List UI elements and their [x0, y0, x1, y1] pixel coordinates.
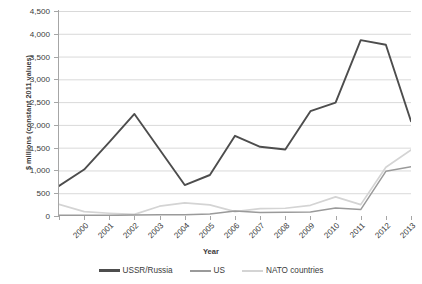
x-axis-tick-label: 2011	[348, 221, 367, 240]
x-axis-tick-mark	[361, 216, 362, 220]
x-axis-tick-mark	[260, 216, 261, 220]
x-axis-tick-label: 2009	[298, 221, 317, 240]
x-axis-tick-mark	[386, 216, 387, 220]
x-axis-tick-mark	[285, 216, 286, 220]
x-axis-tick-mark	[411, 216, 412, 220]
x-axis-tick-label: 2005	[197, 221, 216, 240]
legend-label: US	[214, 266, 225, 275]
x-axis-tick-label: 2002	[122, 221, 141, 240]
y-axis-tick-mark	[54, 11, 59, 12]
x-axis-tick-mark	[185, 216, 186, 220]
x-axis-tick-mark	[310, 216, 311, 220]
x-axis-tick-label: 2008	[272, 221, 291, 240]
x-axis-tick-mark	[160, 216, 161, 220]
legend-item[interactable]: US	[190, 266, 225, 275]
x-axis-tick-label: 2010	[323, 221, 342, 240]
y-axis-tick-mark	[54, 34, 59, 35]
chart-legend: USSR/RussiaUSNATO countries	[0, 266, 422, 275]
x-axis-tick-mark	[84, 216, 85, 220]
x-axis-tick-label: 2004	[172, 221, 191, 240]
y-axis-tick-mark	[54, 193, 59, 194]
y-axis-tick-mark	[54, 79, 59, 80]
x-axis-tick-label: 2003	[147, 221, 166, 240]
y-axis-tick-mark	[54, 57, 59, 58]
line-chart: $ millions (constant 2011 values) 05001,…	[0, 0, 422, 284]
y-axis-tick-mark	[54, 148, 59, 149]
x-axis-title: Year	[0, 247, 422, 256]
x-axis-tick-label: 2013	[398, 221, 417, 240]
legend-swatch	[242, 270, 263, 272]
x-axis-tick-mark	[134, 216, 135, 220]
x-axis-tick-mark	[336, 216, 337, 220]
x-axis-tick-label: 2001	[96, 221, 115, 240]
x-axis-tick-label: 2007	[247, 221, 266, 240]
x-axis-tick-mark	[210, 216, 211, 220]
y-axis-tick-mark	[54, 216, 59, 217]
y-axis-tick-mark	[54, 125, 59, 126]
legend-item[interactable]: NATO countries	[242, 266, 323, 275]
legend-swatch	[190, 270, 211, 272]
x-axis-tick-label: 2012	[373, 221, 392, 240]
x-axis-tick-mark	[109, 216, 110, 220]
x-axis-tick-labels: 2000200120022003200420052006200720082009…	[0, 0, 422, 284]
legend-swatch	[99, 269, 120, 271]
x-axis-tick-mark	[235, 216, 236, 220]
legend-label: NATO countries	[266, 266, 323, 275]
y-axis-tick-mark	[54, 102, 59, 103]
x-axis-tick-label: 2000	[71, 221, 90, 240]
x-axis-tick-label: 2006	[222, 221, 241, 240]
legend-label: USSR/Russia	[123, 266, 173, 275]
y-axis-tick-mark	[54, 170, 59, 171]
legend-item[interactable]: USSR/Russia	[99, 266, 173, 275]
x-axis-tick-mark	[59, 216, 60, 220]
